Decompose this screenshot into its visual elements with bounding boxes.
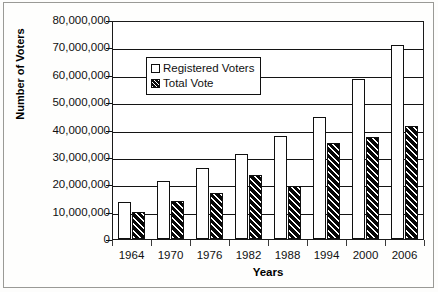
- x-axis-tick-labels: 19641970197619821988199420002006: [112, 249, 424, 265]
- y-axis-tick-label: 40,000,000: [18, 125, 110, 137]
- bar-registered-voters: [196, 168, 209, 239]
- bar-total-vote: [210, 193, 223, 239]
- y-axis-tick-label: 50,000,000: [18, 97, 110, 109]
- x-axis-tick-label: 1982: [236, 249, 262, 261]
- bar-total-vote: [366, 137, 379, 239]
- x-axis-title: Years: [112, 266, 424, 278]
- bar-total-vote: [327, 143, 340, 239]
- x-axis-tick: [151, 240, 152, 246]
- bar-group: [113, 22, 152, 239]
- bar-group: [347, 22, 386, 239]
- bar-group: [269, 22, 308, 239]
- x-axis-tick-label: 1970: [158, 249, 184, 261]
- legend-item-registered-voters: Registered Voters: [151, 61, 254, 76]
- bar-registered-voters: [118, 202, 131, 239]
- bars-layer: [113, 22, 423, 239]
- x-axis-tick: [112, 240, 113, 246]
- x-axis-tick: [346, 240, 347, 246]
- bar-group: [191, 22, 230, 239]
- x-axis-tick: [268, 240, 269, 246]
- legend-item-label: Total Vote: [163, 78, 214, 90]
- bar-registered-voters: [391, 45, 404, 239]
- hatched-square-icon: [151, 79, 160, 88]
- bar-total-vote: [171, 201, 184, 239]
- bar-total-vote: [132, 212, 145, 239]
- bar-registered-voters: [235, 154, 248, 239]
- x-axis-tick: [424, 240, 425, 246]
- x-axis-tick-label: 1964: [119, 249, 145, 261]
- legend-item-label: Registered Voters: [163, 63, 254, 75]
- bar-registered-voters: [352, 79, 365, 239]
- bar-group: [230, 22, 269, 239]
- x-axis-tick: [385, 240, 386, 246]
- y-axis-tick-label: 10,000,000: [18, 207, 110, 219]
- legend-item-total-vote: Total Vote: [151, 76, 254, 91]
- x-axis-tick: [190, 240, 191, 246]
- x-axis-tick-label: 1976: [197, 249, 223, 261]
- chart-page: Number of Voters 010,000,00020,000,00030…: [0, 0, 438, 292]
- x-axis-tick-label: 1994: [314, 249, 340, 261]
- bar-total-vote: [405, 126, 418, 239]
- x-axis-tick-label: 1988: [275, 249, 301, 261]
- x-axis-tick-label: 2000: [353, 249, 379, 261]
- y-axis-tick-label: 30,000,000: [18, 152, 110, 164]
- y-axis-tick-label: 20,000,000: [18, 180, 110, 192]
- bar-group: [386, 22, 425, 239]
- x-axis-tick: [229, 240, 230, 246]
- bar-group: [308, 22, 347, 239]
- y-axis-tick-labels: 010,000,00020,000,00030,000,00040,000,00…: [18, 21, 110, 240]
- bar-total-vote: [249, 175, 262, 239]
- y-axis-tick-label: 60,000,000: [18, 70, 110, 82]
- x-axis-tick: [307, 240, 308, 246]
- bar-registered-voters: [274, 136, 287, 239]
- y-axis-tick-label: 0: [18, 234, 110, 246]
- bar-total-vote: [288, 186, 301, 239]
- bar-group: [152, 22, 191, 239]
- white-square-icon: [151, 64, 160, 73]
- y-axis-tick-label: 80,000,000: [18, 15, 110, 27]
- plot-area: [112, 21, 424, 240]
- bar-registered-voters: [157, 181, 170, 239]
- x-axis-tick-marks: [112, 240, 424, 246]
- chart-legend: Registered Voters Total Vote: [146, 57, 261, 95]
- y-axis-tick-label: 70,000,000: [18, 43, 110, 55]
- x-axis-tick-label: 2006: [392, 249, 418, 261]
- bar-registered-voters: [313, 117, 326, 239]
